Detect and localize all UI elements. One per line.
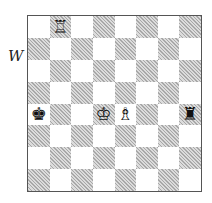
square-f4 bbox=[136, 104, 158, 126]
square-h6 bbox=[179, 60, 201, 82]
square-h5 bbox=[179, 82, 201, 104]
square-d3 bbox=[93, 125, 115, 147]
square-a1 bbox=[28, 169, 50, 191]
square-c4 bbox=[71, 104, 93, 126]
black-king-icon: ♚ bbox=[31, 105, 47, 123]
square-e1 bbox=[115, 169, 137, 191]
square-c8 bbox=[71, 16, 93, 38]
side-to-move-label: W bbox=[8, 47, 23, 65]
square-a7 bbox=[28, 38, 50, 60]
square-e5 bbox=[115, 82, 137, 104]
square-e6 bbox=[115, 60, 137, 82]
square-f2 bbox=[136, 147, 158, 169]
square-b2 bbox=[50, 147, 72, 169]
square-e7 bbox=[115, 38, 137, 60]
square-g2 bbox=[158, 147, 180, 169]
square-c7 bbox=[71, 38, 93, 60]
square-a2 bbox=[28, 147, 50, 169]
square-c6 bbox=[71, 60, 93, 82]
square-g7 bbox=[158, 38, 180, 60]
square-h2 bbox=[179, 147, 201, 169]
square-c3 bbox=[71, 125, 93, 147]
square-f1 bbox=[136, 169, 158, 191]
square-c2 bbox=[71, 147, 93, 169]
square-c1 bbox=[71, 169, 93, 191]
square-f5 bbox=[136, 82, 158, 104]
square-g4 bbox=[158, 104, 180, 126]
square-e4: ♗ bbox=[115, 104, 137, 126]
white-king-icon: ♔ bbox=[96, 105, 112, 123]
square-a8 bbox=[28, 16, 50, 38]
square-h4: ♜ bbox=[179, 104, 201, 126]
square-b4 bbox=[50, 104, 72, 126]
square-h7 bbox=[179, 38, 201, 60]
square-a4: ♚ bbox=[28, 104, 50, 126]
square-d2 bbox=[93, 147, 115, 169]
square-b1 bbox=[50, 169, 72, 191]
square-d4: ♔ bbox=[93, 104, 115, 126]
square-a6 bbox=[28, 60, 50, 82]
square-h8 bbox=[179, 16, 201, 38]
square-b3 bbox=[50, 125, 72, 147]
white-bishop-icon: ♗ bbox=[117, 105, 133, 123]
square-b8: ♖ bbox=[50, 16, 72, 38]
square-d1 bbox=[93, 169, 115, 191]
square-h1 bbox=[179, 169, 201, 191]
square-g8 bbox=[158, 16, 180, 38]
square-b6 bbox=[50, 60, 72, 82]
white-rook-icon: ♖ bbox=[52, 18, 68, 36]
square-h3 bbox=[179, 125, 201, 147]
square-b5 bbox=[50, 82, 72, 104]
chess-board: ♖♚♔♗♜ bbox=[27, 15, 202, 192]
square-a3 bbox=[28, 125, 50, 147]
square-c5 bbox=[71, 82, 93, 104]
square-b7 bbox=[50, 38, 72, 60]
square-d6 bbox=[93, 60, 115, 82]
square-f3 bbox=[136, 125, 158, 147]
square-d7 bbox=[93, 38, 115, 60]
black-rook-icon: ♜ bbox=[182, 105, 198, 123]
square-d5 bbox=[93, 82, 115, 104]
square-a5 bbox=[28, 82, 50, 104]
square-g1 bbox=[158, 169, 180, 191]
square-f6 bbox=[136, 60, 158, 82]
square-g3 bbox=[158, 125, 180, 147]
square-f7 bbox=[136, 38, 158, 60]
square-g6 bbox=[158, 60, 180, 82]
square-d8 bbox=[93, 16, 115, 38]
square-g5 bbox=[158, 82, 180, 104]
square-e8 bbox=[115, 16, 137, 38]
square-e3 bbox=[115, 125, 137, 147]
square-f8 bbox=[136, 16, 158, 38]
square-e2 bbox=[115, 147, 137, 169]
